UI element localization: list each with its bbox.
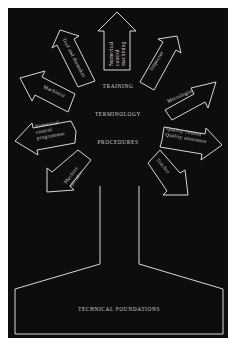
arrow-label: Teacher [155,157,171,175]
arrow-left-icon [20,71,75,112]
arrow-label: Machinist [43,83,67,98]
center-label-procedures: PROCEDURES [97,139,138,145]
arrow-machinist: Machinist [20,71,75,112]
base-label-technical-foundations: TECHNICAL FOUNDATIONS [78,306,160,312]
arrow-qc-qa: Quality control Quality assurance [160,125,222,160]
arrow-up-right-icon [140,36,181,90]
arrow-nc-machining: Numerical control machining [98,12,136,70]
arrow-inspector: Inspector [140,36,181,90]
arrow-machine-operator: Machine operator [47,150,91,192]
center-label-terminology: TERMINOLOGY [95,111,141,117]
arrow-metrologist: Metrologist [165,82,216,120]
center-label-training: TRAINING [103,83,134,89]
arrow-teacher: Teacher [148,150,188,195]
arrow-nc-programmer: Numerical control programmer [15,118,76,155]
arrow-label: machining [120,41,126,66]
arrow-tool-die: Tool and diemaker [52,30,95,87]
career-tree-diagram: Numerical control machining Tool and die… [0,0,234,345]
